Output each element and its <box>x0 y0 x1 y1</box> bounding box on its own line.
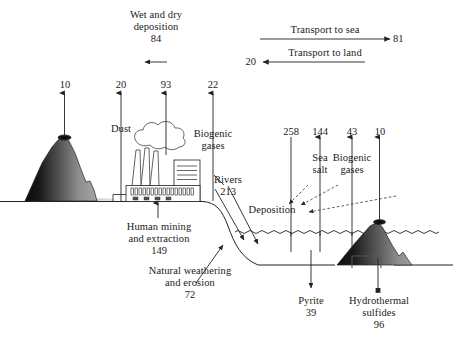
value-natural-weathering: 72 <box>123 289 257 301</box>
label-hydrothermal-line1: Hydrothermal <box>336 295 422 307</box>
wet-dry-deposition-value: 84 <box>106 33 206 45</box>
flux-value-industrial: 93 <box>150 79 182 91</box>
label-dust: Dust <box>101 123 141 135</box>
label-pyrite: Pyrite <box>288 295 334 307</box>
transport-to-sea-value: 81 <box>393 33 417 45</box>
label-human-mining-line2: and extraction <box>108 233 210 245</box>
ocean-column-ticks <box>291 232 352 252</box>
transport-to-land-value: 20 <box>232 56 256 68</box>
label-biogenic-ocean-line2: gases <box>329 164 375 176</box>
flux-value-ocean-volcano: 10 <box>364 126 396 138</box>
value-human-mining: 149 <box>108 245 210 257</box>
transport-to-sea-label: Transport to sea <box>255 24 395 36</box>
value-pyrite: 39 <box>288 307 334 319</box>
flux-value-dust: 20 <box>105 79 137 91</box>
label-biogenic-land-line2: gases <box>190 140 236 152</box>
value-rivers: 213 <box>207 186 249 198</box>
label-human-mining-line1: Human mining <box>108 221 210 233</box>
label-natural-weathering-line1: Natural weathering <box>123 265 257 277</box>
flux-value-volcano: 10 <box>49 79 81 91</box>
sulfur-cycle-diagram: Wet and dry deposition 84 Transport to s… <box>0 0 453 355</box>
flux-value-sea-salt: 144 <box>304 126 336 138</box>
label-biogenic-ocean-line1: Biogenic <box>329 152 375 164</box>
label-natural-weathering-line2: and erosion <box>123 277 257 289</box>
flux-value-biogenic-land: 22 <box>197 79 229 91</box>
sea-surface-wavy-line <box>235 231 439 234</box>
label-rivers: Rivers <box>207 174 249 186</box>
flux-value-deposition-258: 258 <box>275 126 307 138</box>
value-hydrothermal: 96 <box>336 319 422 331</box>
wet-dry-deposition-line1: Wet and dry <box>106 9 206 21</box>
label-hydrothermal-line2: sulfides <box>336 307 422 319</box>
wet-dry-deposition-line2: deposition <box>106 21 206 33</box>
label-deposition-ocean: Deposition <box>243 204 301 216</box>
transport-to-land-label: Transport to land <box>255 47 395 59</box>
label-biogenic-land-line1: Biogenic <box>190 128 236 140</box>
land-volcano <box>25 135 97 201</box>
deposition-dashed-arrows <box>289 185 396 212</box>
ocean-volcano <box>337 220 412 268</box>
